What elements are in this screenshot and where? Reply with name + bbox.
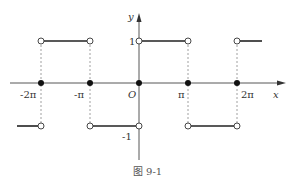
tick-2pi: 2π (241, 89, 254, 100)
x-axis-label: x (273, 89, 279, 100)
y-axis-arrow-icon (137, 13, 142, 22)
tick-y-1: 1 (129, 36, 135, 47)
tick-pi: π (178, 89, 185, 100)
tick-y-neg-1: -1 (122, 131, 132, 142)
tick-neg-pi: -π (74, 89, 84, 100)
tick-origin: O (128, 89, 136, 100)
figure: -2π -π O π 2π x y 1 -1 图 9-1 (0, 0, 295, 184)
x-axis-arrow-icon (277, 81, 286, 86)
y-axis-label: y (127, 11, 134, 22)
tick-neg-2pi: -2π (20, 89, 37, 100)
square-wave-plot: -2π -π O π 2π x y 1 -1 (0, 0, 295, 184)
figure-caption: 图 9-1 (0, 163, 295, 178)
